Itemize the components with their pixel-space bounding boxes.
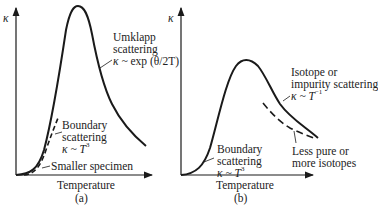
panel-b-less-pure-line1: Less pure or: [292, 145, 356, 157]
panel-b-less-pure-label: Less pure or more isotopes: [292, 145, 356, 169]
panel-b-less-pure-curve: [263, 103, 314, 138]
panel-a-umklapp-formula: κ ~ exp (θ/2T): [113, 55, 179, 67]
panel-a-x-axis-label: Temperature: [57, 179, 115, 191]
panel-b-y-axis-label: κ: [168, 12, 174, 24]
panel-a-boundary-exponent: 3: [86, 141, 90, 149]
panel-a-boundary-formula-base: κ ~ T: [62, 143, 86, 155]
panel-b-isotope-formula: κ ~ T−1: [291, 90, 378, 102]
panel-a-boundary-formula: κ ~ T3: [62, 143, 107, 155]
panel-b-isotope-exponent: −1: [315, 88, 322, 96]
panel-a-boundary-leader: [55, 132, 62, 134]
panel-a-boundary-line1: Boundary: [62, 119, 107, 131]
panel-b-isotope-label: Isotope or impurity scattering κ ~ T−1: [291, 66, 378, 102]
panel-b-caption: (b): [234, 192, 247, 204]
panel-a-umklapp-leader: [100, 60, 112, 68]
panel-b-x-axis-label: Temperature: [216, 179, 274, 191]
panel-a-umklapp-label: Umklapp scattering κ ~ exp (θ/2T): [113, 31, 179, 67]
panel-b-boundary-line2: scattering: [217, 155, 262, 167]
panel-b-boundary-label: Boundary scattering κ ~ T3: [217, 143, 262, 179]
panel-a-umklapp-formula-prefix: κ ~: [113, 55, 128, 67]
panel-b-less-pure-leader: [294, 131, 296, 143]
panel-a-y-axis-label: κ: [3, 12, 9, 24]
panel-a-boundary-line2: scattering: [62, 131, 107, 143]
panel-a-umklapp-formula-rest: exp (θ/2T): [131, 55, 180, 67]
panel-b-less-pure-line2: more isotopes: [292, 157, 356, 169]
panel-b-boundary-line1: Boundary: [217, 143, 262, 155]
panel-a-caption: (a): [75, 192, 88, 204]
panel-a-smaller-specimen-label: Smaller specimen: [51, 160, 133, 172]
panel-a-umklapp-line2: scattering: [113, 43, 179, 55]
panel-b-isotope-line1: Isotope or: [291, 66, 378, 78]
panel-a-boundary-label: Boundary scattering κ ~ T3: [62, 119, 107, 155]
panel-b-boundary-exponent: 3: [241, 165, 245, 173]
panel-a-umklapp-line1: Umklapp: [113, 31, 179, 43]
panel-a-smaller-leader: [42, 166, 50, 168]
panel-b-isotope-line2: impurity scattering: [291, 78, 378, 90]
panel-b-boundary-formula-base: κ ~ T: [217, 167, 241, 179]
panel-b-isotope-formula-base: κ ~ T: [291, 90, 315, 102]
panel-b-isotope-leader: [283, 96, 290, 101]
panel-b-boundary-formula: κ ~ T3: [217, 167, 262, 179]
